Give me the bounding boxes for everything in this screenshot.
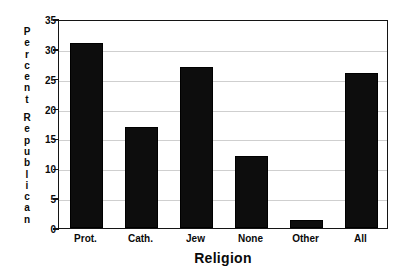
bar-series [59,21,387,228]
plot-area [58,20,388,229]
bar-chart-figure: PercentRepublican 05101520253035 Prot.Ca… [0,0,416,276]
x-axis-tick-label: Jew [186,233,205,244]
bar [125,127,158,229]
bar [235,156,268,228]
x-axis-tick-label: Cath. [128,233,153,244]
bar [180,67,213,228]
x-axis-tick-label: None [238,233,263,244]
x-axis-title: Religion [58,250,388,266]
bar [345,73,378,228]
x-axis-tick-label: All [354,233,367,244]
bar [290,220,323,228]
x-axis-tick-label: Prot. [74,233,97,244]
bar [70,43,103,228]
x-axis-tick-label: Other [292,233,319,244]
x-axis-tick-labels: Prot.Cath.JewNoneOtherAll [58,233,388,249]
